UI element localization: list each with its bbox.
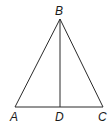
label-d: D [55, 110, 64, 124]
label-c: C [98, 110, 107, 124]
triangle-diagram: B A D C [0, 0, 111, 127]
label-a: A [9, 110, 18, 124]
segment-bc [60, 19, 103, 107]
segment-ab [15, 19, 60, 107]
label-b: B [55, 4, 63, 18]
